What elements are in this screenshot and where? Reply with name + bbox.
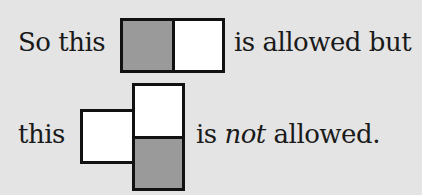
line2-is: is: [196, 119, 224, 149]
line1-prefix: So this: [18, 27, 105, 57]
line2-suffix: is not allowed.: [196, 119, 380, 149]
allowed-shaded-cell: [120, 18, 175, 73]
line2-allowed: allowed.: [266, 119, 380, 149]
not-allowed-top-cell: [132, 83, 185, 139]
line1-suffix: is allowed but: [234, 27, 411, 57]
not-allowed-left-cell: [80, 109, 135, 164]
not-allowed-shaded-cell: [132, 136, 185, 191]
allowed-empty-cell: [172, 18, 225, 73]
line2-prefix: this: [18, 119, 65, 149]
line2-not-emphasis: not: [224, 119, 265, 149]
